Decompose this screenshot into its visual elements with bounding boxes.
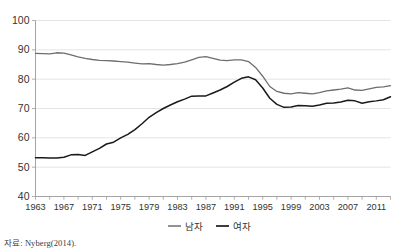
gridlines-group (36, 21, 391, 197)
y-tick-label: 50 (18, 161, 30, 173)
x-tick-label: 1995 (252, 202, 272, 212)
x-tick-label: 1975 (110, 202, 130, 212)
x-tick-label: 2011 (366, 202, 386, 212)
x-tick-label: 1999 (281, 202, 301, 212)
y-tick-label: 90 (18, 43, 30, 55)
x-tick-label: 1983 (167, 202, 187, 212)
x-tick-label: 1963 (25, 202, 45, 212)
x-tick-label: 1987 (196, 202, 216, 212)
x-tick-label: 2003 (309, 202, 329, 212)
y-tick-label: 100 (12, 14, 30, 26)
legend-label: 남자 (185, 221, 203, 232)
y-tick-label: 70 (18, 102, 30, 114)
y-axis-ticks-group: 405060708090100 (12, 14, 36, 202)
x-tick-label: 1979 (139, 202, 159, 212)
chart-figure: 405060708090100 196319671971197519791983… (0, 0, 400, 251)
x-tick-label: 2007 (338, 202, 358, 212)
source-note: 자료: Nyberg(2014). (4, 236, 76, 248)
x-tick-label: 1971 (82, 202, 102, 212)
line-chart: 405060708090100 196319671971197519791983… (0, 0, 400, 251)
y-tick-label: 40 (18, 190, 30, 202)
x-tick-label: 1991 (224, 202, 244, 212)
series-group (36, 53, 391, 158)
legend-label: 여자 (233, 221, 251, 232)
series-line-male (36, 53, 391, 94)
x-axis-ticks-group: 1963196719711975197919831987199119951999… (25, 197, 390, 213)
y-tick-label: 60 (18, 131, 30, 143)
chart-legend: 남자여자 (168, 221, 251, 232)
x-tick-label: 1967 (54, 202, 74, 212)
y-tick-label: 80 (18, 73, 30, 85)
